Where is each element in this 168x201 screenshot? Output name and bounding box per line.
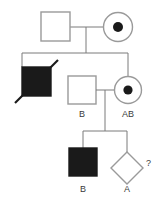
individual-III-2-unknown-sex-diamond	[111, 152, 143, 184]
label-II-3-blood-type: AB	[122, 109, 134, 119]
individual-II-3-carrier-dot	[123, 85, 132, 94]
individual-II-1-male-affected-deceased	[15, 60, 58, 103]
pedigree-diagram: B AB B A ?	[0, 0, 168, 201]
individual-II-2-male-square	[68, 76, 96, 104]
individual-I-2-carrier-dot	[113, 22, 123, 32]
individual-III-1-male-affected-square	[69, 148, 97, 176]
individual-I-2-female-carrier-circle	[104, 13, 133, 42]
gen1-mating-connector	[70, 27, 103, 53]
label-III-2-question-mark: ?	[146, 158, 151, 168]
gen2-mating-connector	[96, 90, 114, 131]
label-III-1-blood-type: B	[80, 184, 86, 194]
label-III-2-blood-type: A	[124, 184, 130, 194]
pedigree-chart: B AB B A ?	[0, 0, 168, 201]
label-II-2-blood-type: B	[79, 109, 85, 119]
individual-II-3-female-carrier-circle	[115, 77, 142, 104]
individual-I-1-male-square	[41, 12, 70, 41]
